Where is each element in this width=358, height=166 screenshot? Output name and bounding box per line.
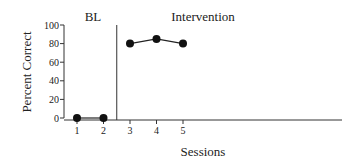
y-tick-label: 80 (49, 38, 59, 49)
phase-label: BL (85, 9, 102, 24)
data-point (100, 114, 108, 122)
percent-correct-chart: BLIntervention 02040608010012345 Session… (0, 0, 358, 166)
y-tick-label: 40 (49, 75, 59, 86)
x-tick-label: 2 (101, 125, 106, 136)
data-series (73, 35, 187, 122)
data-point (126, 40, 134, 48)
data-point (153, 35, 161, 43)
data-point (179, 40, 187, 48)
phase-label: Intervention (171, 9, 235, 24)
y-axis-label: Percent Correct (19, 31, 34, 113)
y-tick-label: 0 (54, 113, 59, 124)
y-tick-label: 100 (44, 20, 59, 31)
x-tick-label: 4 (154, 125, 159, 136)
x-tick-label: 1 (75, 125, 80, 136)
phase-labels: BLIntervention (85, 9, 236, 24)
data-point (73, 114, 81, 122)
x-axis-label: Sessions (181, 144, 226, 159)
x-tick-label: 3 (128, 125, 133, 136)
y-tick-label: 60 (49, 57, 59, 68)
y-tick-label: 20 (49, 94, 59, 105)
x-tick-label: 5 (181, 125, 186, 136)
